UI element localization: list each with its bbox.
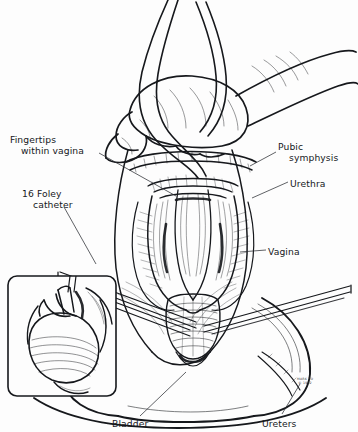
signature-line2: © 1992 — [298, 381, 312, 385]
artist-signature: MARK TO© 1992 — [297, 378, 313, 385]
label-vagina: Vagina — [268, 246, 300, 257]
label-fingertips-line1: Fingertips — [10, 134, 56, 145]
label-foley-line1: 16 Foley — [22, 188, 62, 199]
label-urethra: Urethra — [290, 178, 326, 189]
label-fingertips-within-vagina: Fingertipswithin vagina — [10, 134, 84, 157]
label-foley-line2: catheter — [22, 199, 73, 210]
label-pubic-symphysis: Pubicsymphysis — [278, 141, 338, 164]
inset-panel-border — [8, 276, 116, 396]
inset-detail-panel — [8, 276, 116, 396]
label-bladder: Bladder — [112, 418, 148, 429]
label-ureters: Ureters — [262, 418, 296, 429]
label-pubic-line1: Pubic — [278, 141, 303, 152]
label-fingertips-line2: within vagina — [10, 145, 84, 156]
medical-illustration — [0, 0, 358, 432]
label-pubic-line2: symphysis — [278, 152, 338, 163]
label-16-foley-catheter: 16 Foleycatheter — [22, 188, 73, 211]
